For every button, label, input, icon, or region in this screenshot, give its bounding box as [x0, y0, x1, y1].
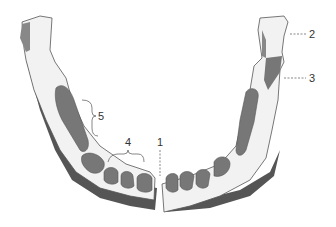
- label-5: 5: [98, 110, 104, 122]
- label-1: 1: [157, 136, 163, 148]
- label-3: 3: [309, 72, 315, 84]
- right-tooth-b: [180, 172, 194, 191]
- label-2: 2: [309, 28, 315, 40]
- left-tooth-b: [121, 172, 134, 189]
- left-condyle-shade: [20, 22, 30, 52]
- right-mandible-half: [162, 16, 288, 212]
- left-tooth-a: [104, 168, 118, 185]
- left-tooth-c: [137, 174, 152, 193]
- label-4: 4: [125, 136, 131, 148]
- left-bone-body: [22, 16, 155, 200]
- mandible-diagram: 1 2 3 4 5: [0, 0, 336, 227]
- right-tooth-a: [196, 170, 210, 189]
- left-mandible-half: [20, 16, 157, 210]
- right-tooth-c: [166, 174, 178, 193]
